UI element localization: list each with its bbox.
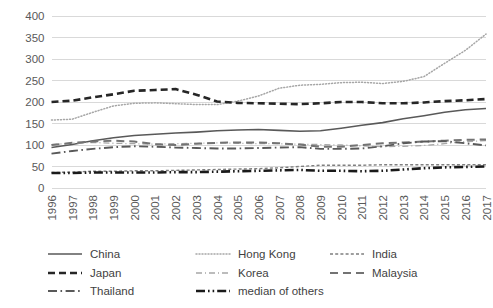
y-axis-tick-label: 0 [38, 182, 44, 194]
x-axis-tick-label: 2017 [481, 195, 493, 221]
y-axis-tick-labels: 050100150200250300350400 [25, 10, 44, 194]
y-axis-tick-label: 50 [32, 161, 45, 173]
x-axis-tick-label: 2002 [170, 195, 182, 221]
series-line-median-of-others [52, 167, 487, 173]
x-axis-tick-label: 2001 [149, 195, 161, 221]
legend-label-median-of-others: median of others [238, 285, 324, 297]
y-axis-tick-label: 250 [25, 75, 44, 87]
legend-label-japan: Japan [90, 267, 121, 279]
x-axis-tick-label: 1996 [46, 195, 58, 221]
legend-label-hong-kong: Hong Kong [238, 248, 296, 260]
x-axis-tick-label: 2007 [274, 195, 286, 221]
legend-label-china: China [90, 248, 121, 260]
x-axis-tick-label: 2014 [418, 194, 430, 220]
y-axis-tick-label: 300 [25, 53, 44, 65]
y-axis-tick-label: 100 [25, 139, 44, 151]
x-axis-tick-labels: 1996199719981999200020012002200320042005… [46, 194, 493, 220]
x-axis-tick-label: 2006 [253, 195, 265, 221]
legend-label-malaysia: Malaysia [372, 267, 418, 279]
legend-label-korea: Korea [238, 267, 269, 279]
x-axis-tick-label: 1998 [87, 195, 99, 221]
x-axis-tick-label: 2003 [191, 195, 203, 221]
x-axis-tick-label: 2013 [398, 195, 410, 221]
y-axis-tick-label: 400 [25, 10, 44, 22]
chart-container: 050100150200250300350400 199619971998199… [0, 0, 493, 308]
x-axis-tick-label: 1999 [108, 195, 120, 221]
chart-legend: ChinaHong KongIndiaJapanKoreaMalaysiaTha… [48, 248, 418, 297]
legend-label-india: India [372, 248, 398, 260]
y-axis-tick-label: 200 [25, 96, 44, 108]
x-axis-tick-label: 2016 [460, 195, 472, 221]
x-axis-tick-label: 2015 [439, 195, 451, 221]
x-axis-tick-label: 2000 [129, 195, 141, 221]
series-line-hong-kong [52, 34, 487, 120]
x-axis-tick-label: 2005 [232, 195, 244, 221]
x-axis-tick-label: 2004 [212, 194, 224, 220]
x-axis-tick-label: 2012 [377, 195, 389, 221]
x-axis-tick-label: 2010 [336, 195, 348, 221]
series-lines [52, 34, 487, 173]
gridlines [52, 16, 487, 188]
x-axis-tick-label: 1997 [67, 195, 79, 221]
x-axis-tick-label: 2009 [315, 195, 327, 221]
line-chart: 050100150200250300350400 199619971998199… [0, 0, 493, 308]
legend-label-thailand: Thailand [90, 285, 134, 297]
x-axis-tick-label: 2008 [294, 195, 306, 221]
x-axis-tick-label: 2011 [356, 195, 368, 220]
y-axis-tick-label: 150 [25, 118, 44, 130]
y-axis-tick-label: 350 [25, 32, 44, 44]
